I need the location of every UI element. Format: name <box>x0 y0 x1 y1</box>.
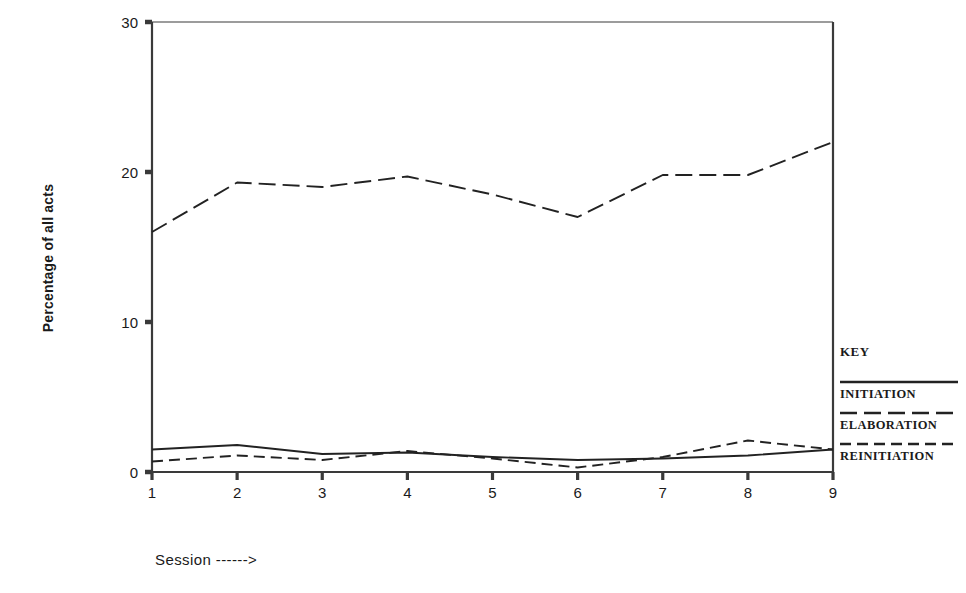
plot-area: 0102030123456789 <box>0 0 966 593</box>
legend-title: KEY <box>840 344 966 360</box>
legend-label: INITIATION <box>840 387 966 402</box>
series-lines <box>152 142 833 468</box>
chart-legend: KEY INITIATIONELABORATIONREINITIATION <box>840 344 966 470</box>
legend-entry-initiation: INITIATION <box>840 377 966 402</box>
y-tick-label: 20 <box>121 164 138 181</box>
axis-group <box>152 22 833 472</box>
x-tick-label: 5 <box>488 484 496 501</box>
x-tick-label: 1 <box>148 484 156 501</box>
legend-entry-elaboration: ELABORATION <box>840 408 966 433</box>
y-tick-label: 0 <box>130 464 138 481</box>
y-tick-label: 30 <box>121 14 138 31</box>
series-line-reinitiation <box>152 441 833 468</box>
chart-container: Percentage of all acts 0102030123456789 … <box>0 0 966 593</box>
legend-swatch-elaboration-icon <box>840 408 958 417</box>
x-tick-label: 2 <box>233 484 241 501</box>
x-tick-label: 9 <box>829 484 837 501</box>
legend-entry-reinitiation: REINITIATION <box>840 439 966 464</box>
tick-group: 0102030123456789 <box>121 14 837 502</box>
y-tick-label: 10 <box>121 314 138 331</box>
x-tick-label: 3 <box>318 484 326 501</box>
legend-label: REINITIATION <box>840 449 966 464</box>
x-tick-label: 8 <box>744 484 752 501</box>
legend-entry-list: INITIATIONELABORATIONREINITIATION <box>840 377 966 464</box>
legend-label: ELABORATION <box>840 418 966 433</box>
legend-swatch-initiation-icon <box>840 377 958 386</box>
x-tick-label: 7 <box>659 484 667 501</box>
x-tick-label: 4 <box>403 484 411 501</box>
series-line-elaboration <box>152 142 833 232</box>
x-tick-label: 6 <box>573 484 581 501</box>
x-axis-title: Session ------> <box>155 551 257 568</box>
legend-swatch-reinitiation-icon <box>840 439 958 448</box>
